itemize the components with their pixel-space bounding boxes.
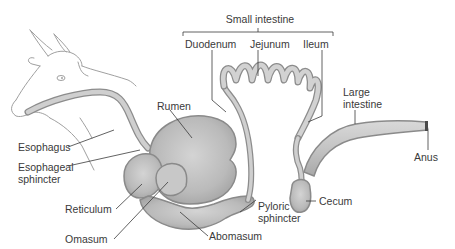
label-large-intestine: Large intestine (343, 86, 382, 110)
label-jejunum: Jejunum (250, 38, 290, 50)
label-pyloric-sphincter: Pyloric sphincter (258, 200, 301, 224)
label-rumen: Rumen (157, 100, 191, 112)
label-anus: Anus (414, 151, 438, 163)
label-esophageal-sphincter: Esophageal sphincter (18, 161, 73, 185)
large-intestine (304, 121, 428, 176)
label-reticulum: Reticulum (65, 203, 112, 215)
omasum (156, 164, 187, 196)
digestive-system-diagram: Small intestine Duodenum Jejunum Ileum L… (0, 0, 455, 249)
small-intestine-bracket (183, 28, 333, 36)
label-duodenum: Duodenum (185, 38, 236, 50)
label-esophagus: Esophagus (18, 141, 71, 153)
label-cecum: Cecum (319, 195, 352, 207)
label-abomasum: Abomasum (209, 230, 262, 242)
label-ileum: Ileum (303, 38, 329, 50)
label-omasum: Omasum (65, 233, 108, 245)
label-small-intestine: Small intestine (215, 13, 305, 25)
anus-end (425, 121, 428, 131)
